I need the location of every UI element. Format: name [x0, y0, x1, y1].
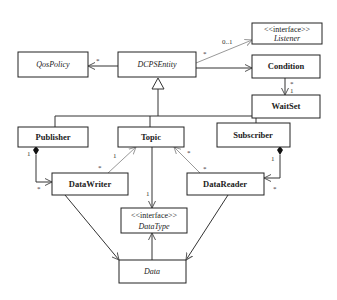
association-datawriter-topic — [108, 147, 136, 173]
class-topic: Topic — [118, 127, 184, 147]
subscriber-name: Subscriber — [233, 130, 273, 140]
class-listener: <<interface>> Listener — [252, 23, 322, 44]
class-waitset: WaitSet — [252, 95, 320, 118]
datareader-name: DataReader — [203, 179, 247, 189]
class-datatype: <<interface>> DataType — [121, 208, 187, 233]
mult-topic-writer-writer: * — [98, 164, 102, 172]
class-dcpsentity: DCPSEntity — [118, 52, 196, 77]
composition-publisher-datawriter — [36, 155, 52, 182]
uml-class-diagram: * 0..1 * * 1 1 * 1 * 1 * * 1 * <<interfa… — [0, 0, 337, 300]
class-datawriter: DataWriter — [52, 173, 128, 195]
class-condition: Condition — [252, 55, 320, 78]
generalization-triangle — [152, 78, 164, 89]
dcpsentity-name: DCPSEntity — [136, 60, 177, 69]
datatype-stereotype: <<interface>> — [131, 211, 178, 220]
class-subscriber: Subscriber — [217, 123, 290, 147]
condition-name: Condition — [268, 61, 305, 71]
mult-publisher-writer-writer: * — [37, 185, 41, 193]
waitset-name: WaitSet — [272, 101, 301, 111]
data-name: Data — [143, 267, 160, 276]
class-qospolicy: QosPolicy — [18, 52, 88, 77]
mult-dcps-listener-src: * — [203, 50, 207, 58]
mult-topic-writer-topic: 1 — [113, 152, 117, 160]
mult-publisher-writer-pub: 1 — [27, 150, 31, 158]
dependency-datareader-data — [186, 195, 228, 260]
qospolicy-name: QosPolicy — [36, 60, 70, 69]
datawriter-name: DataWriter — [69, 179, 112, 189]
mult-topic-datatype: 1 — [146, 190, 150, 198]
topic-name: Topic — [141, 132, 161, 142]
datatype-name: DataType — [138, 222, 170, 231]
listener-stereotype: <<interface>> — [264, 25, 311, 34]
mult-topic-reader-reader: * — [203, 165, 207, 173]
listener-name: Listener — [273, 34, 301, 43]
class-publisher: Publisher — [18, 127, 88, 147]
mult-topic-reader-topic: * — [187, 149, 191, 157]
dependency-datawriter-data — [65, 195, 119, 260]
class-datareader: DataReader — [187, 173, 264, 195]
mult-dcps-listener-dst: 0..1 — [222, 38, 233, 46]
mult-subscriber-reader-reader: * — [273, 185, 277, 193]
publisher-name: Publisher — [36, 132, 71, 142]
mult-condition-waitset-bottom: 1 — [290, 87, 294, 95]
mult-dcps-qospolicy: * — [96, 57, 100, 65]
mult-subscriber-reader-sub: 1 — [271, 155, 275, 163]
class-data: Data — [119, 260, 186, 283]
